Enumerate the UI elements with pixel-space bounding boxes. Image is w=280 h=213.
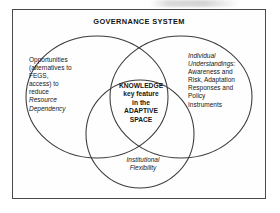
individual-line-4: Risk, Adaptation: [188, 76, 235, 83]
governance-system-venn-figure: GOVERNANCE SYSTEM Opportunities (alterna…: [0, 0, 280, 213]
knowledge-line-4: ADAPTIVE: [124, 107, 158, 114]
label-opportunities: Opportunities (alternatives to FEGS, acc…: [29, 56, 93, 113]
institutional-line-2: Flexibility: [130, 164, 157, 171]
label-institutional-flexibility: Institutional Flexibility: [108, 156, 178, 172]
knowledge-line-3: in the: [132, 99, 150, 106]
opportunities-line-7: Dependency: [29, 105, 66, 112]
individual-line-6: Policy: [188, 92, 205, 99]
individual-line-7: Instruments: [188, 101, 222, 108]
opportunities-line-1: Opportunities: [29, 56, 68, 63]
individual-line-5: Responses and: [188, 84, 233, 91]
knowledge-line-1: KNOWLEDGE: [119, 82, 163, 89]
opportunities-line-3: FEGS,: [29, 72, 49, 79]
opportunities-line-4: access) to: [29, 80, 59, 87]
knowledge-line-5: SPACE: [130, 116, 153, 123]
institutional-line-1: Institutional: [127, 156, 160, 163]
individual-line-1: Individual: [188, 52, 215, 59]
individual-line-3: Awareness and: [188, 68, 233, 75]
knowledge-line-2: key feature: [123, 90, 158, 97]
opportunities-line-6: Resource: [29, 96, 57, 103]
opportunities-line-5: reduce: [29, 88, 49, 95]
individual-line-2: Understandings:: [188, 60, 235, 67]
label-individual-understandings: Individual Understandings: Awareness and…: [188, 52, 256, 109]
opportunities-line-2: (alternatives to: [29, 64, 72, 71]
label-knowledge-adaptive-space: KNOWLEDGE key feature in the ADAPTIVE SP…: [105, 82, 177, 124]
